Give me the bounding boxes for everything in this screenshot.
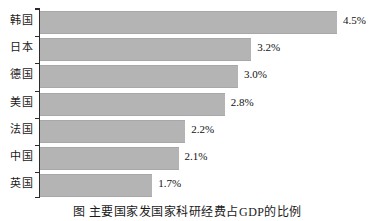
bar-row: 日本3.2% bbox=[0, 36, 375, 63]
category-label: 中国 bbox=[0, 149, 33, 163]
category-label: 法国 bbox=[0, 122, 33, 136]
category-label: 美国 bbox=[0, 95, 33, 109]
axis-tick bbox=[35, 172, 40, 173]
bar-row: 美国2.8% bbox=[0, 91, 375, 118]
axis-tick bbox=[35, 145, 40, 146]
figure-caption: 图 主要国家发国家科研经费占GDP的比例 bbox=[0, 205, 375, 220]
bar bbox=[40, 147, 179, 170]
bar-value-label: 2.2% bbox=[191, 123, 214, 136]
bar-value-label: 3.0% bbox=[244, 68, 267, 81]
bar bbox=[40, 11, 337, 34]
axis-tick bbox=[35, 9, 40, 10]
bar bbox=[40, 174, 152, 197]
bar bbox=[40, 120, 185, 143]
bar bbox=[40, 65, 238, 88]
axis-tick bbox=[35, 36, 40, 37]
bar-value-label: 2.8% bbox=[231, 96, 254, 109]
bar-row: 中国2.1% bbox=[0, 145, 375, 172]
category-label: 日本 bbox=[0, 40, 33, 54]
bar bbox=[40, 93, 225, 116]
axis-tick bbox=[35, 91, 40, 92]
axis-tick bbox=[35, 118, 40, 119]
category-label: 韩国 bbox=[0, 13, 33, 27]
bar-row: 德国3.0% bbox=[0, 63, 375, 90]
bar-row: 韩国4.5% bbox=[0, 9, 375, 36]
bar-value-label: 4.5% bbox=[343, 14, 366, 27]
bar-value-label: 1.7% bbox=[158, 177, 181, 190]
bar-chart-figure: 韩国4.5%日本3.2%德国3.0%美国2.8%法国2.2%中国2.1%英国1.… bbox=[0, 0, 375, 221]
bar bbox=[40, 38, 251, 61]
bar-rows: 韩国4.5%日本3.2%德国3.0%美国2.8%法国2.2%中国2.1%英国1.… bbox=[0, 0, 375, 200]
category-label: 英国 bbox=[0, 176, 33, 190]
plot-area: 韩国4.5%日本3.2%德国3.0%美国2.8%法国2.2%中国2.1%英国1.… bbox=[0, 0, 375, 200]
bar-row: 英国1.7% bbox=[0, 172, 375, 199]
bar-value-label: 2.1% bbox=[185, 150, 208, 163]
axis-tick bbox=[35, 63, 40, 64]
bar-row: 法国2.2% bbox=[0, 118, 375, 145]
category-label: 德国 bbox=[0, 67, 33, 81]
bar-value-label: 3.2% bbox=[257, 41, 280, 54]
